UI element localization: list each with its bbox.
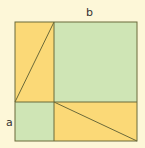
top-right-square-b — [54, 22, 137, 102]
bottom-left-square-a — [15, 102, 54, 141]
label-b: b — [86, 7, 93, 18]
label-a: a — [6, 117, 13, 128]
pythagoras-diagram — [0, 0, 145, 148]
